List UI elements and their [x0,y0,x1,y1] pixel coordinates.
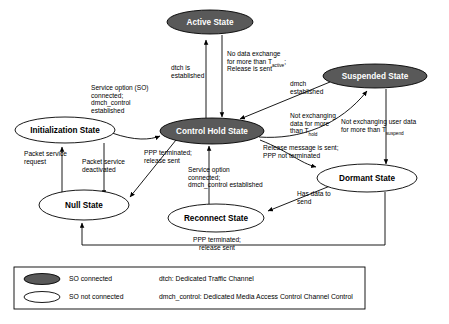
legend-label-so-connected: SO connected [69,275,112,282]
legend-row-so-not-connected: SO not connected dmch_control: Dedicated… [24,292,353,303]
edge-label-line: deactivated [82,166,116,173]
edge-label-line: Packet service [82,158,125,165]
legend: SO connected dtch: Dedicated Traffic Cha… [14,267,365,309]
node-control-hold-state[interactable]: Control Hold State [160,118,264,144]
edge-label-line: for more than Tsuspend [341,126,404,136]
edge-label-service-option-connected-dmch: Service optionconnected;dmch_control est… [188,166,263,189]
node-initialization-state[interactable]: Initialization State [15,117,115,143]
edge-label-line: established [290,88,324,95]
node-initialization-state-label: Initialization State [30,126,100,135]
edge-initialization-to-control-hold [112,133,160,139]
edge-label-line: Has data to [297,190,331,197]
node-null-state-label: Null State [65,201,103,210]
node-control-hold-state-label: Control Hold State [176,127,248,136]
edge-label-line: connected; [91,92,123,99]
edge-label-line: dmch_control established [188,181,263,189]
node-active-state[interactable]: Active State [167,10,253,34]
edge-label-line: established [91,107,125,114]
edge-label-dmch-established: dmchestablished [290,80,324,95]
legend-swatch-filled-icon [24,274,60,285]
edge-label-line: connected; [188,174,220,181]
legend-definition-dtch: dtch: Dedicated Traffic Channel [159,275,254,282]
edge-label-not-exchanging-data-hold: Not exchangingdata for morethan Thold [290,112,336,137]
edge-label-service-option-so-connected: Service option (SO)connected;dmch_contro… [91,84,149,114]
legend-swatch-hollow-icon [24,292,60,303]
edge-label-line: PPP terminated; [144,149,192,156]
node-null-state[interactable]: Null State [39,190,129,220]
edge-label-line: release sent [144,157,180,164]
edge-label-line: dtch is [171,64,191,71]
edge-label-packet-service-request: Packet servicerequest [24,150,67,166]
legend-border [14,267,365,309]
state-diagram: Active State Suspended State Initializat… [0,0,449,324]
legend-definition-dmch-control: dmch_control: Dedicated Media Access Con… [159,293,353,301]
edge-label-ppp-terminated-release-sent-bottom: PPP terminated;release sent [193,236,241,251]
legend-label-so-not-connected: SO not connected [69,293,124,300]
edge-label-release-message-sent: Release message is sent;PPP not terminat… [263,144,339,159]
edge-label-not-exchanging-user-data-suspend: Not exchanging user datafor more than Ts… [341,118,416,135]
edge-label-line: release sent [199,244,235,251]
node-reconnect-state-label: Reconnect State [184,214,249,223]
legend-row-so-connected: SO connected dtch: Dedicated Traffic Cha… [24,274,254,285]
node-suspended-state-label: Suspended State [342,72,409,81]
edge-label-no-data-exchange-active: No data exchangefor more than Tactive;Re… [227,50,286,72]
node-reconnect-state[interactable]: Reconnect State [168,204,264,232]
edge-label-line: Release is sent [227,65,272,72]
edge-label-has-data-to-send: Has data tosend [297,190,331,205]
node-dormant-state-label: Dormant State [339,174,395,183]
edge-label-packet-service-deactivated: Packet servicedeactivated [82,158,125,173]
edge-label-dtch-established: dtch isestablished [171,64,205,79]
edge-label-line: Packet service [24,150,67,157]
edge-label-line: PPP terminated; [193,236,241,243]
edge-label-ppp-terminated-release-sent-hold: PPP terminated;release sent [144,149,192,164]
edge-label-line: established [171,72,205,79]
edge-label-line: PPP not terminated [263,152,320,159]
diagram-canvas: Active State Suspended State Initializat… [0,0,449,324]
edge-label-line: data for more [290,120,330,127]
edge-label-line: send [297,198,312,205]
edge-label-line: dmch [290,80,306,87]
node-active-state-label: Active State [187,18,234,27]
node-suspended-state[interactable]: Suspended State [323,64,427,88]
edge-label-line: request [24,158,46,166]
node-dormant-state[interactable]: Dormant State [317,164,417,192]
